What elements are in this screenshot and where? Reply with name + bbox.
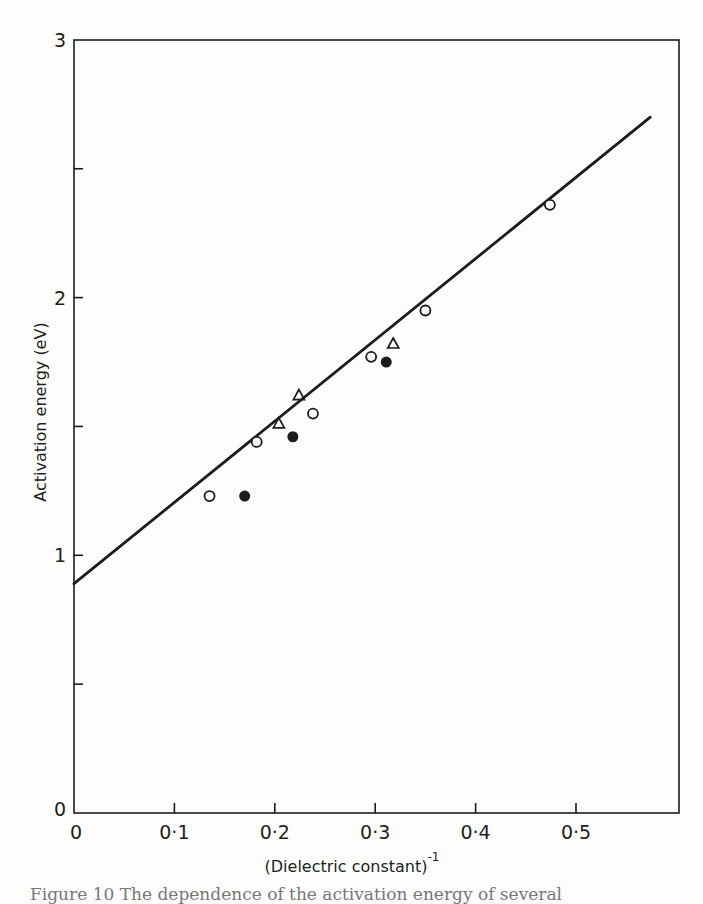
y-axis-title: Activation energy (eV) xyxy=(31,322,50,501)
y-tick-label: 3 xyxy=(54,29,66,51)
open-circle-marker xyxy=(205,491,215,501)
filled-circle-marker xyxy=(287,431,298,442)
figure-caption: Figure 10 The dependence of the activati… xyxy=(30,884,703,904)
fit-line xyxy=(74,117,650,583)
y-tick-label: 0 xyxy=(54,798,66,820)
y-tick-label: 2 xyxy=(54,287,66,309)
filled-circle-marker xyxy=(239,491,250,502)
x-tick-label: 0 xyxy=(70,821,82,843)
x-tick-label: 0·1 xyxy=(159,821,189,843)
filled-circle-marker xyxy=(381,357,392,368)
axis-tick-labels: 00·10·20·30·40·50123 xyxy=(54,29,591,843)
open-circle-marker xyxy=(545,200,555,210)
x-axis-title: (Dielectric constant)-1 xyxy=(265,850,440,876)
axis-ticks xyxy=(74,169,576,813)
open-circle-marker xyxy=(252,437,262,447)
data-points xyxy=(205,200,555,502)
x-tick-label: 0·5 xyxy=(561,821,591,843)
open-circle-marker xyxy=(366,352,376,362)
axis-titles: Activation energy (eV) (Dielectric const… xyxy=(31,322,439,876)
open-triangle-marker xyxy=(388,338,399,348)
open-circle-marker xyxy=(420,305,430,315)
open-circle-marker xyxy=(308,409,318,419)
y-tick-label: 1 xyxy=(54,544,66,566)
x-tick-label: 0·3 xyxy=(360,821,390,843)
x-tick-label: 0·4 xyxy=(460,821,490,843)
x-tick-label: 0·2 xyxy=(260,821,290,843)
plot-frame xyxy=(74,40,679,813)
open-triangle-marker xyxy=(293,390,304,400)
